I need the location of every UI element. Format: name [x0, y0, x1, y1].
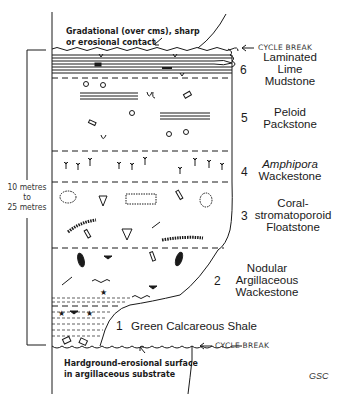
unit-2-line2: Argillaceous [222, 274, 312, 286]
bottom-contact-line1: Hardground-erosional surface [64, 358, 198, 369]
unit-2-line1: Nodular [222, 262, 312, 274]
bottom-contact-note: Hardground-erosional surface in argillac… [64, 358, 198, 379]
thickness-line2: to [6, 192, 49, 202]
bottom-erosional-surface [52, 346, 242, 348]
top-contact-line2: or erosional contact [66, 37, 200, 48]
top-contact-line1: Gradational (over cms), sharp [66, 26, 200, 37]
top-contact-note: Gradational (over cms), sharp or erosion… [66, 26, 200, 47]
unit-4-line2: Wackestone [250, 170, 330, 182]
unit-1-number: 1 [116, 319, 123, 333]
amphipora-symbols [64, 157, 224, 174]
unit-3-line3: Floatstone [248, 221, 338, 233]
svg-text:★: ★ [100, 288, 107, 297]
thickness-label: 10 metres to 25 metres [6, 182, 49, 212]
thickness-bracket-bottom [27, 218, 46, 345]
unit-5-line2: Packstone [252, 118, 328, 130]
unit-3-number: 3 [241, 209, 248, 223]
svg-text:★: ★ [58, 309, 65, 318]
unit-4-number: 4 [241, 165, 248, 179]
svg-text:★: ★ [86, 309, 93, 318]
cycle-break-bottom-label: CYCLE BREAK [215, 341, 269, 350]
unit-2-number: 2 [214, 274, 221, 288]
unit-6-number: 6 [240, 63, 247, 77]
unit-2-label: Nodular Argillaceous Wackestone [222, 262, 312, 298]
unit-3-line1: Coral- [248, 197, 338, 209]
thickness-line3: 25 metres [6, 202, 49, 212]
unit-5-label: Peloid Packstone [252, 106, 328, 130]
unit-4-line1: Amphipora [250, 158, 330, 170]
unit-6-line1: Laminated [250, 51, 330, 63]
unit-3-label: Coral- stromatoporoid Floatstone [248, 197, 338, 233]
credit-label: GSC [309, 371, 329, 381]
top-erosional-surface [52, 48, 238, 52]
unit-6-label: Laminated Lime Mudstone [250, 51, 330, 87]
unit-4-label: Amphipora Wackestone [250, 158, 330, 182]
unit-1-label: Green Calcareous Shale [131, 320, 271, 332]
unit-5-number: 5 [241, 111, 248, 125]
thickness-line1: 10 metres [6, 182, 49, 192]
thickness-bracket-top [27, 50, 46, 180]
unit-6-line3: Mudstone [250, 75, 330, 87]
unit-3-line2: stromatoporoid [248, 209, 338, 221]
unit-2-line3: Wackestone [222, 286, 312, 298]
bottom-contact-line2: in argillaceous substrate [64, 369, 198, 380]
unit-6-line2: Lime [250, 63, 330, 75]
overlying-contact-curve [198, 14, 226, 48]
unit-5-line1: Peloid [252, 106, 328, 118]
